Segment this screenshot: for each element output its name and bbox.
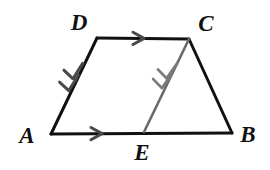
vertex-label-A: A (19, 124, 34, 147)
geometry-figure: D C A B E (0, 0, 270, 170)
segment-CB-line (189, 39, 232, 133)
vertex-label-D: D (71, 11, 88, 34)
segment-AB-line (51, 133, 232, 134)
segment-DA-line (51, 38, 97, 134)
chevron-marks-ce (153, 64, 177, 89)
vertex-label-E: E (134, 141, 149, 164)
vertex-label-C: C (198, 12, 213, 35)
vertex-label-B: B (240, 123, 255, 146)
segment-CE-line (144, 39, 189, 132)
